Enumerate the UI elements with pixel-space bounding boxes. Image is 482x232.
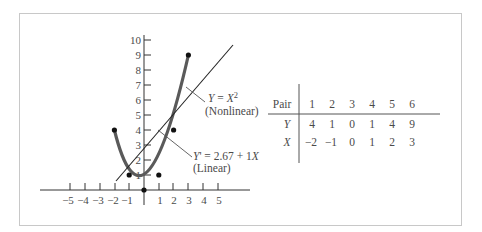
svg-text:6: 6 <box>409 98 415 110</box>
svg-text:4: 4 <box>309 118 315 130</box>
table-row-x: X −2 −1 0 1 2 3 <box>282 136 415 148</box>
svg-text:−5: −5 <box>62 194 74 206</box>
svg-text:4: 4 <box>389 118 395 130</box>
svg-text:8: 8 <box>136 64 142 76</box>
linear-annotation: Y' = 2.67 + 1X (Linear) <box>193 150 260 175</box>
svg-text:9: 9 <box>136 49 142 61</box>
svg-text:1: 1 <box>309 98 315 110</box>
svg-text:(Nonlinear): (Nonlinear) <box>205 105 259 118</box>
svg-text:6: 6 <box>136 94 142 106</box>
svg-text:3: 3 <box>186 194 192 206</box>
svg-text:4: 4 <box>369 98 375 110</box>
svg-text:10: 10 <box>130 34 142 46</box>
svg-text:−2: −2 <box>107 194 119 206</box>
svg-text:5: 5 <box>136 109 142 121</box>
data-point <box>186 52 191 57</box>
svg-text:−1: −1 <box>121 194 133 206</box>
table-header-row: Pair 1 2 3 4 5 6 <box>273 98 415 110</box>
svg-text:3: 3 <box>349 98 355 110</box>
svg-text:7: 7 <box>136 79 142 91</box>
data-point <box>112 127 117 132</box>
svg-text:−3: −3 <box>92 194 104 206</box>
svg-text:1: 1 <box>329 118 335 130</box>
nonlinear-curve <box>114 55 188 176</box>
data-point <box>141 187 146 192</box>
svg-text:Y' = 2.67 + 1X: Y' = 2.67 + 1X <box>193 150 260 162</box>
y-ticks <box>144 40 151 175</box>
svg-text:0: 0 <box>349 118 355 130</box>
data-table: Pair 1 2 3 4 5 6 Y 4 1 0 1 4 9 X −2 −1 0… <box>268 84 440 163</box>
svg-text:−2: −2 <box>305 136 317 148</box>
data-point <box>156 172 161 177</box>
svg-text:Y: Y <box>284 118 292 130</box>
svg-text:X: X <box>282 136 291 148</box>
y-tick-labels: 1 2 3 4 5 6 7 8 9 10 <box>130 34 142 181</box>
nonlinear-annotation: Y = X2 (Nonlinear) <box>205 90 259 118</box>
svg-text:1: 1 <box>369 136 375 148</box>
svg-text:4: 4 <box>201 194 207 206</box>
svg-text:Pair: Pair <box>273 98 292 110</box>
x-tick-labels: −5 −4 −3 −2 −1 1 2 3 4 5 <box>62 194 222 206</box>
regression-figure: −5 −4 −3 −2 −1 1 2 3 4 5 1 2 3 4 5 6 7 8… <box>0 0 482 232</box>
table-row-y: Y 4 1 0 1 4 9 <box>284 118 415 130</box>
svg-text:2: 2 <box>389 136 395 148</box>
svg-text:Y = X2: Y = X2 <box>208 90 238 104</box>
svg-text:−1: −1 <box>325 136 337 148</box>
svg-text:1: 1 <box>157 194 163 206</box>
data-point <box>127 172 132 177</box>
svg-text:9: 9 <box>409 118 415 130</box>
svg-text:2: 2 <box>171 194 177 206</box>
data-point <box>171 127 176 132</box>
svg-text:5: 5 <box>216 194 222 206</box>
svg-text:4: 4 <box>136 124 142 136</box>
svg-text:3: 3 <box>409 136 415 148</box>
svg-text:1: 1 <box>369 118 375 130</box>
svg-text:−4: −4 <box>77 194 89 206</box>
svg-text:0: 0 <box>349 136 355 148</box>
svg-text:3: 3 <box>136 139 142 151</box>
svg-text:5: 5 <box>389 98 395 110</box>
svg-text:(Linear): (Linear) <box>193 162 231 175</box>
svg-text:2: 2 <box>329 98 335 110</box>
